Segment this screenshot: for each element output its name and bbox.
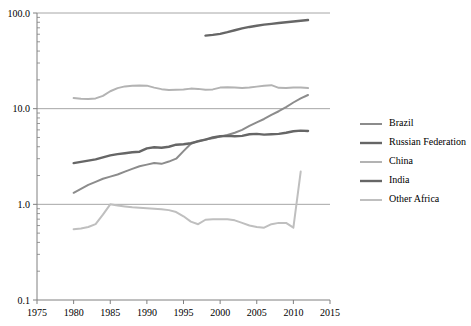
legend-item-russian-federation[interactable]: Russian Federation [360,136,466,147]
legend-label: Other Africa [389,193,440,204]
chart-svg: 0.11.010.0100.01975198019851990199520002… [0,0,471,326]
legend-label: India [389,174,410,185]
x-tick-label: 2000 [210,307,230,318]
y-tick-label: 100.0 [8,8,31,19]
series-line-russian-federation [205,20,308,36]
y-tick-label: 10.0 [13,103,31,114]
legend-item-other-africa[interactable]: Other Africa [360,193,440,204]
y-tick-label: 0.1 [18,295,31,306]
legend-item-india[interactable]: India [360,174,410,185]
series-line-india [74,131,308,163]
legend-label: Russian Federation [389,136,466,147]
x-tick-label: 1990 [137,307,157,318]
legend-item-brazil[interactable]: Brazil [360,117,414,128]
x-tick-label: 1985 [100,307,120,318]
legend-item-china[interactable]: China [360,155,413,166]
x-tick-label: 2015 [320,307,340,318]
x-tick-label: 2005 [247,307,267,318]
legend-label: China [389,155,413,166]
x-tick-label: 1980 [64,307,84,318]
x-tick-label: 1975 [27,307,47,318]
series-line-china [74,85,308,99]
chart-container: 0.11.010.0100.01975198019851990199520002… [0,0,471,326]
x-tick-label: 1995 [174,307,194,318]
y-tick-label: 1.0 [18,199,31,210]
series-line-other-africa [74,172,301,230]
x-tick-label: 2010 [283,307,303,318]
legend-label: Brazil [389,117,414,128]
